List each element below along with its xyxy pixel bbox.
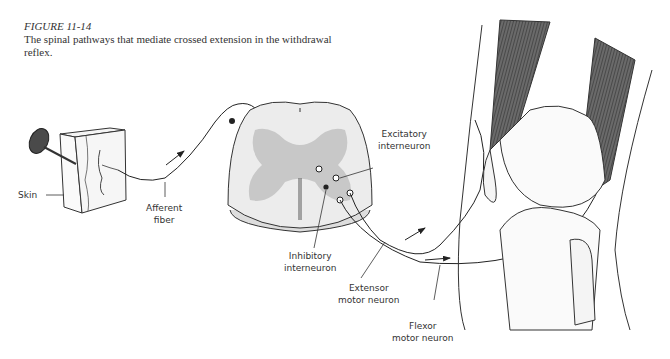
label-excitatory-interneuron: Excitatory interneuron <box>378 128 430 152</box>
extensor-arrow-icon <box>405 228 425 240</box>
reflex-diagram <box>0 0 670 359</box>
label-extensor-motor-neuron: Extensor motor neuron <box>338 282 400 306</box>
knee-anatomy <box>458 20 652 330</box>
label-skin: Skin <box>18 189 37 201</box>
flexor-arrow-icon <box>425 258 450 260</box>
skin-block <box>60 128 126 213</box>
label-afferent-fiber: Afferent fiber <box>146 202 182 226</box>
dorsal-root-ganglion <box>229 118 235 124</box>
afferent-arrow-icon <box>166 151 184 165</box>
label-flexor-motor-neuron: Flexor motor neuron <box>392 320 454 344</box>
label-inhibitory-interneuron: Inhibitory interneuron <box>284 250 336 274</box>
spinal-cord-section <box>228 102 372 232</box>
